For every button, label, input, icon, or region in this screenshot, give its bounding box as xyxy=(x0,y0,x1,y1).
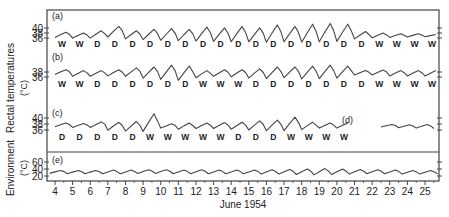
x-tick-label: 16 xyxy=(261,186,273,197)
series-line-c xyxy=(55,114,348,132)
day-label-dry: D xyxy=(358,79,364,89)
x-tick-label: 12 xyxy=(190,186,202,197)
day-label-wet: W xyxy=(410,39,419,49)
day-label-wet: W xyxy=(305,132,314,142)
day-label-dry: D xyxy=(182,79,188,89)
day-label-wet: W xyxy=(287,132,296,142)
x-tick-label: 7 xyxy=(105,186,111,197)
day-label-wet: W xyxy=(146,132,155,142)
day-label-dry: D xyxy=(165,39,171,49)
day-label-dry: D xyxy=(323,39,329,49)
panel-label-b: (b) xyxy=(52,52,63,62)
day-label-dry: D xyxy=(112,132,118,142)
day-label-dry: D xyxy=(323,79,329,89)
x-tick-label: 17 xyxy=(278,186,290,197)
x-tick-label: 22 xyxy=(367,186,379,197)
day-label-dry: D xyxy=(218,39,224,49)
day-label-dry: D xyxy=(147,39,153,49)
day-label-wet: W xyxy=(234,79,243,89)
chart-figure: 45678910111213141516171819202122232425(a… xyxy=(0,0,449,217)
day-label-dry: D xyxy=(112,39,118,49)
panel-label-c: (c) xyxy=(52,108,63,118)
day-label-dry: D xyxy=(94,132,100,142)
x-axis-title: June 1954 xyxy=(220,199,267,210)
day-label-dry: D xyxy=(288,39,294,49)
day-label-wet: W xyxy=(428,39,437,49)
day-label-wet: W xyxy=(76,79,85,89)
day-label-wet: W xyxy=(58,39,67,49)
x-tick-label: 5 xyxy=(70,186,76,197)
plot-border xyxy=(47,10,439,181)
x-tick-label: 24 xyxy=(402,186,414,197)
y-tick-label: 36 xyxy=(32,72,44,83)
day-label-dry: D xyxy=(358,39,364,49)
day-label-dry: D xyxy=(341,39,347,49)
x-tick-label: 8 xyxy=(123,186,129,197)
series-line-e xyxy=(50,169,438,175)
day-label-dry: D xyxy=(306,79,312,89)
y-tick-label: 36 xyxy=(32,33,44,44)
day-label-dry: D xyxy=(288,79,294,89)
day-label-dry: D xyxy=(235,39,241,49)
day-label-wet: W xyxy=(217,132,226,142)
x-tick-label: 6 xyxy=(87,186,93,197)
day-label-dry: D xyxy=(77,132,83,142)
y-axis-unit-environment: (°C) xyxy=(19,160,29,176)
x-tick-label: 25 xyxy=(419,186,431,197)
x-tick-label: 21 xyxy=(349,186,361,197)
day-label-wet: W xyxy=(428,79,437,89)
day-label-dry: D xyxy=(182,39,188,49)
x-tick-label: 18 xyxy=(296,186,308,197)
y-axis-unit-rectal: (°C) xyxy=(19,80,29,96)
day-label-dry: D xyxy=(129,132,135,142)
day-label-wet: W xyxy=(181,132,190,142)
day-label-dry: D xyxy=(270,79,276,89)
day-label-wet: W xyxy=(199,79,208,89)
day-label-dry: D xyxy=(59,132,65,142)
x-tick-label: 9 xyxy=(140,186,146,197)
day-label-dry: D xyxy=(112,79,118,89)
day-label-dry: D xyxy=(270,132,276,142)
y-tick-label: 20 xyxy=(32,171,44,182)
day-label-dry: D xyxy=(253,39,259,49)
x-tick-label: 20 xyxy=(331,186,343,197)
plot-frame xyxy=(47,10,439,181)
panel-label-a: (a) xyxy=(52,11,63,21)
y-tick-label: 36 xyxy=(32,125,44,136)
x-tick-label: 15 xyxy=(243,186,255,197)
day-label-dry: D xyxy=(165,79,171,89)
x-tick-label: 11 xyxy=(173,186,184,197)
day-label-dry: D xyxy=(129,79,135,89)
day-label-wet: W xyxy=(340,132,349,142)
day-label-wet: W xyxy=(375,39,384,49)
day-label-dry: D xyxy=(200,39,206,49)
y-axis-title-environment: Environment xyxy=(5,140,16,196)
day-label-wet: W xyxy=(217,79,226,89)
day-label-wet: W xyxy=(322,132,331,142)
day-label-dry: D xyxy=(235,132,241,142)
x-tick-label: 13 xyxy=(208,186,220,197)
day-label-dry: D xyxy=(253,132,259,142)
day-label-dry: D xyxy=(270,39,276,49)
day-label-wet: W xyxy=(375,79,384,89)
x-tick-label: 14 xyxy=(226,186,238,197)
day-label-wet: W xyxy=(393,79,402,89)
day-label-dry: D xyxy=(94,39,100,49)
day-label-wet: W xyxy=(76,39,85,49)
x-tick-label: 4 xyxy=(52,186,58,197)
x-tick-label: 10 xyxy=(155,186,167,197)
day-label-wet: W xyxy=(393,39,402,49)
day-label-wet: W xyxy=(199,132,208,142)
day-label-wet: W xyxy=(164,132,173,142)
day-label-wet: W xyxy=(410,79,419,89)
day-label-dry: D xyxy=(341,79,347,89)
x-tick-label: 23 xyxy=(384,186,396,197)
series-line-d xyxy=(381,125,434,129)
day-label-dry: D xyxy=(147,79,153,89)
panel-label-e: (e) xyxy=(52,155,63,165)
day-label-wet: W xyxy=(58,79,67,89)
day-label-dry: D xyxy=(94,79,100,89)
day-label-dry: D xyxy=(253,79,259,89)
day-label-dry: D xyxy=(129,39,135,49)
y-axis-title-rectal: Rectal temperatures xyxy=(5,43,16,133)
